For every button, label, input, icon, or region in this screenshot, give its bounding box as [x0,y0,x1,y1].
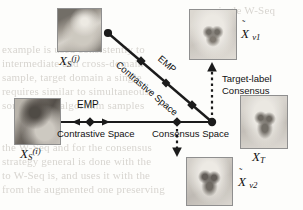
photo-source-j [57,8,102,52]
target-label-consensus-line-2: Consensus [222,85,272,97]
label-target-label-consensus: Target-label Consensus [222,73,272,96]
photo-virtual-1 [189,9,237,60]
node-diamond-horizontal-consensus [172,117,182,127]
tilde-accent-v2: ˜ [239,167,242,178]
target-label-consensus-line-1: Target-label [222,73,272,85]
diagram-canvas: XS(j) XS(i) X ˜ v1 X ˜ v2 XT EMP Contras… [0,0,303,210]
label-emp-horizontal: EMP [77,99,99,110]
label-virtual-1: X ˜ v1 [241,26,261,42]
label-source-i: XS(i) [20,146,41,162]
photo-virtual-2 [186,157,233,206]
consensus-arrow-down-head [172,148,182,158]
label-virtual-2: X ˜ v2 [238,174,258,190]
label-consensus-space: Consensus Space [152,128,229,139]
label-source-j: XS(j) [59,53,80,69]
node-convergence [208,118,216,126]
tilde-accent-v1: ˜ [242,19,245,30]
photo-source-i [14,98,61,145]
photo-target [240,95,288,149]
arrowhead-right [102,118,110,125]
node-diamond-horizontal-contrastive [85,117,95,127]
label-target: XT [252,149,265,165]
arrowhead-left [72,118,80,125]
consensus-arrow-up-head [207,62,217,72]
label-contrastive-space-horizontal: Contrastive Space [57,128,135,139]
node-source-j [104,29,112,37]
